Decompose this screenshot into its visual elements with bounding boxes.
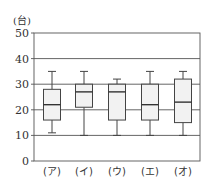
iqr-box xyxy=(142,84,159,120)
iqr-box xyxy=(175,79,192,123)
x-category-label: (ウ) xyxy=(108,166,126,177)
y-tick-label: 20 xyxy=(15,104,29,117)
box-3 xyxy=(109,79,126,135)
box-5 xyxy=(175,71,192,135)
y-axis-unit-label: (台) xyxy=(13,14,31,26)
box-1 xyxy=(44,71,61,132)
iqr-box xyxy=(76,84,93,107)
y-tick-label: 10 xyxy=(15,129,29,142)
x-category-label: (イ) xyxy=(75,166,93,177)
x-axis-labels: (ア)(イ)(ウ)(エ)(オ) xyxy=(43,166,192,177)
y-axis-ticks: 01020304050 xyxy=(15,27,34,168)
x-category-label: (エ) xyxy=(141,166,159,177)
y-tick-label: 50 xyxy=(15,27,29,40)
iqr-box xyxy=(109,84,126,120)
box-4 xyxy=(142,71,159,135)
box-2 xyxy=(76,71,93,135)
x-category-label: (ア) xyxy=(43,166,61,177)
y-tick-label: 0 xyxy=(22,155,29,168)
box-plot-chart: (台) 01020304050 (ア)(イ)(ウ)(エ)(オ) xyxy=(0,0,213,186)
x-category-label: (オ) xyxy=(174,166,192,177)
y-tick-label: 40 xyxy=(15,53,29,66)
y-tick-label: 30 xyxy=(15,78,29,91)
box-series xyxy=(44,71,192,135)
